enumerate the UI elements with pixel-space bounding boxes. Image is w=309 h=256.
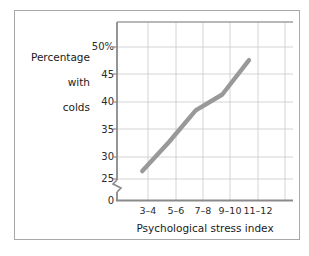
chart-figure: Percentage with colds 50% 45 40 35 30 25…: [0, 0, 309, 256]
plot-background: [117, 22, 293, 200]
plot-svg: [0, 0, 309, 256]
